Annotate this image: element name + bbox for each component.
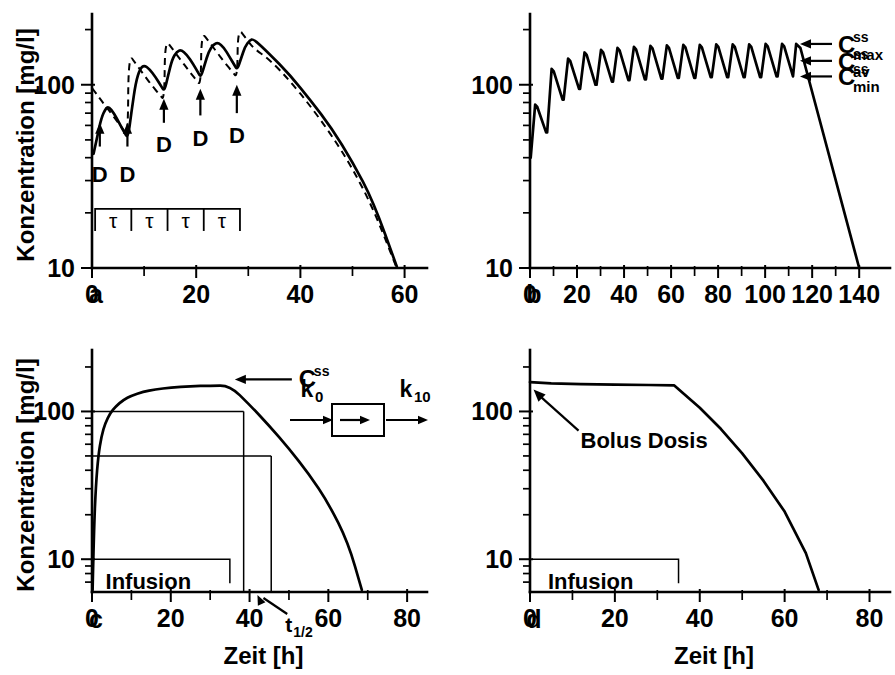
y-axis-title: Konzentration [mg/l] [12,358,39,591]
x-axis-title: Zeit [h] [224,642,304,669]
css-superscript: ss [314,363,330,379]
x-tick-label: 120 [791,280,833,308]
panel-c: 10010020406080Konzentration [mg/l]Zeit [… [12,350,431,669]
css-arrow-head [800,39,811,48]
panel-c-axes: 10010020406080Konzentration [mg/l]Zeit [… [12,350,427,669]
dose-arrow-head [232,85,241,96]
dose-marker-2: D [119,123,135,187]
x-tick-label: 60 [314,604,342,632]
one-compartment-model: k0k10 [290,376,431,436]
y-tick-label: 100 [33,71,75,99]
infusion-bracket: Infusion [94,559,230,594]
curve-iv-bolus-dashed [92,32,397,268]
y-tick-label: 10 [485,545,513,573]
panel-letter-c: c [89,605,103,633]
y-tick-label: 100 [471,397,513,425]
tau-label: τ [181,209,190,232]
x-tick-label: 60 [771,604,799,632]
tau-label: τ [145,209,154,232]
dose-arrow-head [196,89,205,100]
dose-arrow-head [95,123,104,134]
css-superscript: ss [853,61,869,77]
dose-label: D [119,162,135,187]
infusion-label: Infusion [548,569,634,594]
panel-a: 100100204060Konzentration [mg/l]aDDDDDττ… [12,14,427,308]
k10-label: k [400,376,413,402]
panel-b: 10010020406080100120140bCssmaxCssavCssmi… [471,14,890,308]
figure-canvas: 100100204060Konzentration [mg/l]aDDDDDττ… [0,0,895,675]
t-half-subscript: 1/2 [293,624,313,640]
x-tick-label: 40 [236,604,264,632]
x-tick-label: 40 [610,280,638,308]
css-superscript: ss [853,46,869,62]
x-tick-label: 20 [601,604,629,632]
x-tick-label: 80 [856,604,884,632]
t-half-arrow-shaft [263,598,287,614]
bolus-dose-annotation: Bolus Dosis [534,390,708,453]
x-tick-label: 20 [563,280,591,308]
css-subscript: min [853,78,880,95]
tau-label: τ [218,209,227,232]
dose-label: D [92,162,108,187]
x-tick-label: 20 [157,604,185,632]
css-arrow-head [235,375,246,384]
panel-letter-b: b [526,280,541,308]
y-tick-label: 10 [47,545,75,573]
pharmacokinetics-figure: 100100204060Konzentration [mg/l]aDDDDDττ… [0,0,895,675]
panel-letter-a: a [89,280,104,308]
x-tick-label: 60 [657,280,685,308]
dose-label: D [229,123,245,148]
panel-a-axes: 100100204060Konzentration [mg/l] [12,14,427,308]
bolus-dose-label: Bolus Dosis [581,428,708,453]
dose-label: D [156,132,172,157]
x-tick-label: 140 [838,280,880,308]
y-axis-title: Konzentration [mg/l] [12,28,39,261]
k10-arrow-head [418,416,428,424]
x-tick-label: 40 [286,280,314,308]
dose-marker-5: D [229,85,245,148]
dose-marker-4: D [192,89,208,151]
dose-marker-3: D [156,99,172,158]
compartment-inner-arrow-head [360,416,370,424]
k0-subscript: 0 [315,388,323,405]
dose-arrow-head [159,99,168,110]
curve-oral-solid [94,39,397,266]
panel-letter-d: d [526,605,541,633]
y-tick-label: 10 [485,254,513,282]
k10-subscript: 10 [414,388,431,405]
bolus-arrow-shaft [541,397,579,431]
t-half-annotation: t1/2 [257,595,312,640]
panel-d: 10010020406080Zeit [h]dBolus DosisInfusi… [471,350,890,669]
infusion-bracket: Infusion [532,559,678,594]
k0-label: k [301,376,314,402]
infusion-label: Infusion [106,569,192,594]
x-tick-label: 100 [744,280,786,308]
half-life-construction [92,411,271,592]
tau-label: τ [109,209,118,232]
x-tick-label: 60 [391,280,419,308]
dose-label: D [192,126,208,151]
y-tick-label: 10 [47,254,75,282]
css-superscript: ss [853,29,869,45]
x-tick-label: 20 [182,280,210,308]
y-tick-label: 100 [471,71,513,99]
tau-bracket: ττττ [95,209,240,232]
x-axis-title: Zeit [h] [674,642,754,669]
x-tick-label: 80 [393,604,421,632]
t-half-symbol: t [285,613,292,636]
x-tick-label: 40 [686,604,714,632]
css-arrow-head [800,72,811,81]
x-tick-label: 80 [704,280,732,308]
y-tick-label: 100 [33,397,75,425]
